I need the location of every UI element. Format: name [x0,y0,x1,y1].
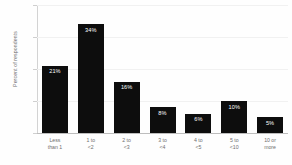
x-axis-tick-label: 3 to<4 [145,137,181,150]
x-axis-line [37,133,288,134]
x-axis-tick-label-line: 4 to [180,137,216,144]
x-axis-tick-label-line: Less [37,137,73,144]
bar-value-label: 21% [49,68,61,74]
x-axis-tick-label: 10 ormore [252,137,288,150]
x-axis-tick-label: 5 to<10 [216,137,252,150]
x-axis-tick-label-line: 2 to [109,137,145,144]
bar-value-label: 5% [266,120,274,126]
bar-value-label: 34% [85,27,97,33]
x-axis-tick-label: Lessthan 1 [37,137,73,150]
bar-item: 8% [150,107,176,133]
gridline [37,37,288,38]
bar-value-label: 6% [194,116,202,122]
x-axis-tick-label-line: 1 to [73,137,109,144]
bar: 34% [78,24,104,133]
x-axis-tick-label-line: <5 [180,144,216,151]
bar-item: 6% [185,114,211,133]
bar: 6% [185,114,211,133]
bar: 5% [257,117,283,133]
x-axis-tick-label-line: than 1 [37,144,73,151]
bar: 21% [42,66,68,133]
bar: 8% [150,107,176,133]
bar-value-label: 10% [228,104,240,110]
x-axis-tick-label: 2 to<3 [109,137,145,150]
bar-item: 5% [257,117,283,133]
bar-value-label: 16% [121,84,133,90]
gridline [37,69,288,70]
bar: 10% [221,101,247,133]
x-axis-tick-label-line: 5 to [216,137,252,144]
plot-area: 21%34%16%8%6%10%5% [37,5,288,133]
x-axis-tick-label: 1 to<2 [73,137,109,150]
x-axis-tick-label-line: more [252,144,288,151]
x-axis-tick-label-line: 10 or [252,137,288,144]
gridline [37,5,288,6]
bar: 16% [114,82,140,133]
bar-item: 21% [42,66,68,133]
bar-item: 34% [78,24,104,133]
x-axis-tick-label-line: <2 [73,144,109,151]
bar-value-label: 8% [158,110,166,116]
y-axis-title: Percent of respondents [12,0,18,119]
x-axis-tick-label: 4 to<5 [180,137,216,150]
bar-chart: Percent of respondents 0%10%20%30%40% 21… [0,0,292,165]
x-axis-tick-label-line: <3 [109,144,145,151]
x-axis-tick-label-line: <10 [216,144,252,151]
x-axis-tick-label-line: <4 [145,144,181,151]
bar-item: 16% [114,82,140,133]
gridline [37,101,288,102]
bar-item: 10% [221,101,247,133]
x-axis-tick-label-line: 3 to [145,137,181,144]
